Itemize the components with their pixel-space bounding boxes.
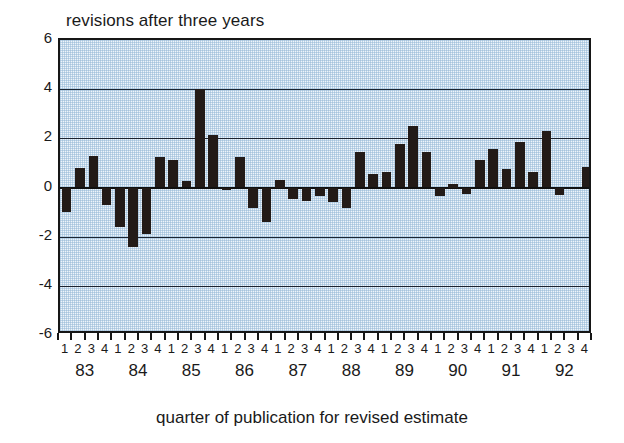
- x-year-label: 87: [278, 362, 318, 380]
- x-tick-mark: [217, 333, 219, 340]
- bar: [448, 184, 458, 188]
- x-tick-mark: [377, 333, 379, 340]
- x-quarter-label: 4: [417, 342, 431, 356]
- x-tick-mark: [110, 333, 112, 340]
- x-quarter-label: 2: [231, 342, 245, 356]
- x-tick-mark: [150, 333, 152, 340]
- x-quarter-label: 3: [511, 342, 525, 356]
- x-tick-mark: [510, 333, 512, 340]
- bar: [89, 156, 99, 188]
- x-tick-mark: [350, 333, 352, 340]
- plot-area: [58, 38, 591, 333]
- x-quarter-label: 4: [151, 342, 165, 356]
- y-tick-label: 4: [8, 79, 52, 94]
- x-tick-mark: [363, 333, 365, 340]
- x-tick-mark: [537, 333, 539, 340]
- x-quarter-label: 1: [111, 342, 125, 356]
- x-tick-mark: [390, 333, 392, 340]
- x-tick-mark: [257, 333, 259, 340]
- bar: [102, 188, 112, 205]
- x-tick-mark: [563, 333, 565, 340]
- x-quarter-label: 2: [444, 342, 458, 356]
- x-quarter-label: 3: [244, 342, 258, 356]
- x-quarter-label: 1: [484, 342, 498, 356]
- x-quarter-label: 3: [84, 342, 98, 356]
- bar: [435, 188, 445, 197]
- bar: [502, 169, 512, 187]
- bar: [555, 188, 565, 195]
- bar: [195, 89, 205, 187]
- bar-series: [60, 40, 589, 331]
- bar: [75, 168, 85, 188]
- x-tick-mark: [523, 333, 525, 340]
- x-tick-mark: [443, 333, 445, 340]
- x-tick-mark: [164, 333, 166, 340]
- x-year-label: 88: [331, 362, 371, 380]
- x-quarter-label: 1: [218, 342, 232, 356]
- bar: [368, 174, 378, 188]
- bar: [528, 172, 538, 188]
- x-quarter-label: 3: [138, 342, 152, 356]
- x-tick-mark: [550, 333, 552, 340]
- x-tick-mark: [137, 333, 139, 340]
- y-tick-label: -4: [8, 276, 52, 291]
- bar: [315, 188, 325, 197]
- x-quarter-label: 2: [124, 342, 138, 356]
- x-tick-mark: [70, 333, 72, 340]
- x-quarter-label: 4: [311, 342, 325, 356]
- bar: [128, 188, 138, 247]
- bar: [488, 149, 498, 187]
- x-tick-mark: [310, 333, 312, 340]
- x-tick-mark: [417, 333, 419, 340]
- bar: [475, 160, 485, 187]
- x-year-label: 83: [65, 362, 105, 380]
- x-year-label: 92: [544, 362, 584, 380]
- x-quarter-label: 2: [551, 342, 565, 356]
- x-quarter-label: 2: [284, 342, 298, 356]
- x-quarter-label: 3: [457, 342, 471, 356]
- x-tick-mark: [124, 333, 126, 340]
- x-tick-mark: [284, 333, 286, 340]
- bar: [275, 180, 285, 187]
- x-tick-mark: [577, 333, 579, 340]
- x-tick-mark: [270, 333, 272, 340]
- x-tick-mark: [337, 333, 339, 340]
- y-tick-label: 6: [8, 30, 52, 45]
- bar: [515, 142, 525, 187]
- y-tick-label: 2: [8, 128, 52, 143]
- x-quarter-label: 1: [537, 342, 551, 356]
- chart-figure: revisions after three years 6420-2-4-6 1…: [0, 0, 624, 443]
- x-tick-mark: [590, 333, 592, 340]
- x-quarter-label: 4: [364, 342, 378, 356]
- x-quarter-label: 2: [391, 342, 405, 356]
- bar: [208, 135, 218, 188]
- x-tick-mark: [324, 333, 326, 340]
- bar: [115, 188, 125, 227]
- bar: [328, 188, 338, 203]
- bar: [395, 144, 405, 187]
- x-quarter-label: 1: [164, 342, 178, 356]
- x-quarter-label: 2: [497, 342, 511, 356]
- x-year-label: 84: [118, 362, 158, 380]
- x-quarter-label: 2: [337, 342, 351, 356]
- x-year-label: 90: [438, 362, 478, 380]
- bar: [582, 167, 591, 188]
- x-quarter-label: 3: [191, 342, 205, 356]
- x-quarter-label: 1: [431, 342, 445, 356]
- y-tick-label: -2: [8, 227, 52, 242]
- x-quarter-label: 1: [58, 342, 72, 356]
- x-quarter-label: 3: [564, 342, 578, 356]
- bar: [422, 152, 432, 188]
- x-year-label: 86: [225, 362, 265, 380]
- y-axis: 6420-2-4-6: [0, 38, 52, 333]
- x-tick-mark: [457, 333, 459, 340]
- bar: [182, 181, 192, 187]
- bar: [235, 157, 245, 188]
- bar: [408, 126, 418, 187]
- x-quarter-label: 4: [471, 342, 485, 356]
- bar: [382, 172, 392, 188]
- x-year-label: 89: [384, 362, 424, 380]
- x-tick-mark: [483, 333, 485, 340]
- bar: [168, 160, 178, 187]
- x-quarter-label: 3: [298, 342, 312, 356]
